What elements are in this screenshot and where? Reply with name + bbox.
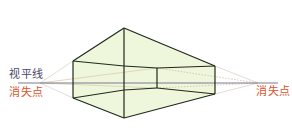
box-fill (73, 28, 215, 118)
guide-lines-right (215, 66, 258, 94)
horizon-label: 视平线 (9, 69, 44, 81)
vanishing-point-label-right: 消失点 (256, 86, 291, 98)
vanishing-point-label-left: 消失点 (9, 87, 44, 99)
